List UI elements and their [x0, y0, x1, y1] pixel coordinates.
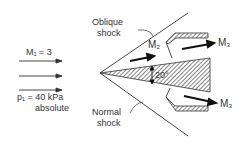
oblique-shock-label-1: Oblique — [92, 17, 123, 27]
inlet-pressure-note: absolute — [35, 103, 69, 113]
mach3-upper-label: M₃ — [218, 38, 230, 48]
inlet-mach-label: M₁ = 3 — [26, 47, 52, 57]
freestream-arrows — [19, 59, 62, 92]
normal-shock-label-2: shock — [97, 118, 121, 128]
inlet-pressure-label: p₁ = 40 kPa — [17, 92, 63, 102]
normal-shock-label-1: Normal — [92, 107, 121, 117]
mach3-lower-label: M₃ — [220, 99, 232, 109]
wedge-angle-label: 20° — [155, 70, 169, 80]
upper-cowl — [166, 33, 208, 44]
shock-diagram: M₁ = 3 p₁ = 40 kPa absolute Oblique shoc… — [0, 0, 246, 147]
mach2-label: M₂ — [148, 40, 160, 50]
oblique-shock-label-2: shock — [97, 28, 121, 38]
